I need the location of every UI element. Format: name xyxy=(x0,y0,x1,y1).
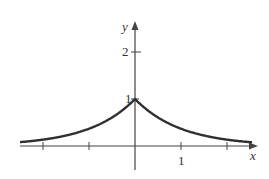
x-tick-label-1: 1 xyxy=(178,153,185,168)
plot-area: 1 x 2 1 y xyxy=(0,0,269,179)
y-axis-label: y xyxy=(120,19,128,34)
y-axis-arrow-icon xyxy=(132,21,139,30)
y-tick-label-2: 2 xyxy=(122,44,129,59)
curve-exp-neg-abs-x xyxy=(20,99,252,142)
x-axis-label: x xyxy=(249,148,256,163)
x-axis: 1 x xyxy=(20,142,258,168)
y-axis: 2 1 y xyxy=(120,19,141,170)
